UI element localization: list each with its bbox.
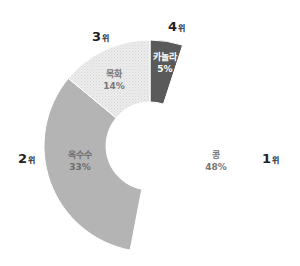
rank-number: 1	[262, 151, 271, 166]
slice-name: 콩	[205, 149, 227, 161]
rank-label: 1위	[262, 152, 279, 165]
rank-label: 3위	[92, 30, 109, 43]
slice-name: 목화	[103, 68, 125, 80]
slice-name: 카놀라	[153, 51, 177, 63]
slice-label: 옥수수33%	[68, 149, 92, 173]
rank-suffix: 위	[272, 156, 279, 165]
slice-percent: 33%	[68, 161, 92, 173]
slice-label: 콩48%	[205, 149, 227, 173]
slice-percent: 5%	[153, 63, 177, 75]
donut-chart	[0, 0, 300, 266]
slice-percent: 48%	[205, 161, 227, 173]
rank-suffix: 위	[102, 34, 109, 43]
rank-suffix: 위	[178, 24, 185, 33]
rank-label: 4위	[168, 20, 185, 33]
slice-label: 목화14%	[103, 68, 125, 92]
rank-number: 3	[92, 29, 101, 44]
rank-suffix: 위	[28, 156, 35, 165]
slice-percent: 14%	[103, 80, 125, 92]
rank-label: 2위	[18, 152, 35, 165]
slice-label: 카놀라5%	[153, 51, 177, 75]
slice-name: 옥수수	[68, 149, 92, 161]
rank-number: 2	[18, 151, 27, 166]
rank-number: 4	[168, 19, 177, 34]
